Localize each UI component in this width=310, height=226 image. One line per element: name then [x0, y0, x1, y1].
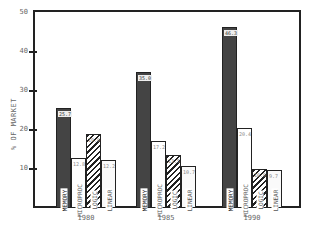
bar-microproc-1985: 17.2MICROPROC [151, 141, 166, 208]
x-tick-label: 1985 [151, 214, 181, 222]
series-label: MICROPROC [155, 183, 162, 218]
value-label: 17.2 [153, 144, 165, 150]
value-label: 20.4 [239, 131, 251, 137]
value-label: 10.7 [183, 169, 195, 175]
bar-logic-1990: 10.0LOGIC [252, 169, 267, 208]
y-tick-label: 40 [12, 47, 28, 55]
value-label: 12.2 [103, 163, 115, 169]
series-label: LINEAR [105, 189, 112, 213]
bar-microproc-1980: 12.8MICROPROC [71, 158, 86, 208]
y-tick [29, 168, 37, 170]
series-label: LOGIC [256, 190, 263, 210]
series-label: MEMORY [140, 189, 147, 213]
bar-linear-1980: 12.2LINEAR [101, 160, 116, 208]
x-tick-label: 1990 [237, 214, 267, 222]
bar-logic-1980: 19.0LOGIC [86, 134, 101, 208]
y-axis-title: % OF MARKET [10, 98, 18, 150]
series-label: LOGIC [90, 190, 97, 210]
bar-memory-1980: 25.7MEMORY [56, 108, 71, 208]
chart: % OF MARKET 102030405025.7MEMORY12.8MICR… [0, 0, 310, 226]
series-label: MEMORY [60, 189, 67, 213]
value-label: 10.0 [254, 172, 266, 178]
value-label: 46.3 [224, 30, 238, 36]
bar-logic-1985: 13.5LOGIC [166, 155, 181, 208]
bar-memory-1990: 46.3MEMORY [222, 27, 237, 208]
series-label: MEMORY [226, 189, 233, 213]
x-tick-label: 1980 [71, 214, 101, 222]
y-tick-label: 50 [12, 8, 28, 16]
value-label: 35.0 [138, 75, 152, 81]
series-label: MICROPROC [241, 183, 248, 218]
series-label: LINEAR [271, 189, 278, 213]
series-label: MICROPROC [75, 183, 82, 218]
value-label: 19.0 [88, 137, 100, 143]
bar-linear-1990: 9.7LINEAR [267, 170, 282, 208]
y-tick-label: 10 [12, 164, 28, 172]
y-tick [29, 51, 37, 53]
bar-linear-1985: 10.7LINEAR [181, 166, 196, 208]
bar-memory-1985: 35.0MEMORY [136, 72, 151, 209]
y-tick-label: 30 [12, 86, 28, 94]
series-label: LOGIC [170, 190, 177, 210]
value-label: 25.7 [58, 111, 72, 117]
value-label: 9.7 [269, 173, 278, 179]
y-tick-label: 20 [12, 125, 28, 133]
value-label: 12.8 [73, 161, 85, 167]
bar-microproc-1990: 20.4MICROPROC [237, 128, 252, 208]
y-tick [29, 90, 37, 92]
y-tick [29, 129, 37, 131]
series-label: LINEAR [185, 189, 192, 213]
value-label: 13.5 [168, 158, 180, 164]
